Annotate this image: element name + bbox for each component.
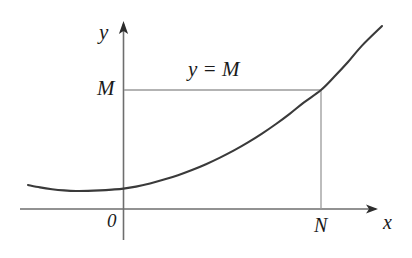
function-graph-figure: y M y = M 0 N x (0, 0, 412, 258)
graph-canvas (0, 0, 412, 258)
threshold-value-label: M (97, 78, 115, 99)
x-axis (20, 205, 378, 214)
function-curve (28, 26, 382, 191)
threshold-line-equation-label: y = M (188, 59, 240, 80)
y-axis (119, 21, 128, 240)
origin-label: 0 (107, 211, 117, 230)
threshold-abscissa-label: N (314, 215, 327, 235)
x-axis-label: x (383, 212, 392, 232)
y-axis-label: y (99, 22, 108, 43)
